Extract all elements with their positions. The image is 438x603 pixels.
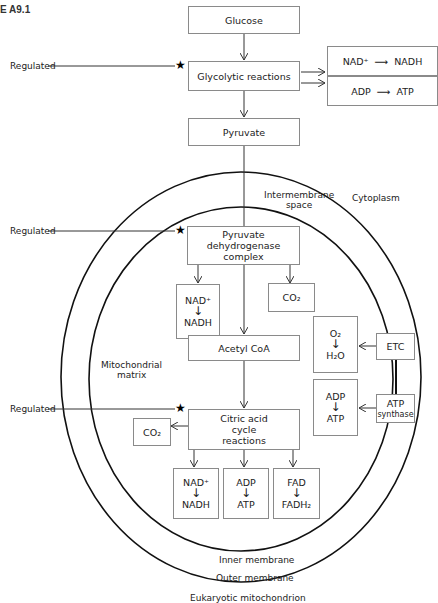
etc-water-box: O₂↓H₂O: [313, 316, 358, 373]
regulated-label-pdh: Regulated: [10, 226, 56, 236]
mitochondrial-matrix-label: Mitochondrialmatrix: [101, 360, 162, 380]
citric-co2-box: CO₂: [133, 418, 171, 446]
regulated-label-glycolysis: Regulated: [10, 61, 56, 71]
intermembrane-space-label: Intermembranespace: [264, 190, 334, 210]
regulated-star-icon: ★: [175, 59, 186, 71]
pdh-nad-box: NAD⁺↓NADH: [176, 284, 220, 339]
citric-acid-cycle-box: Citric acidcyclereactions: [188, 409, 300, 450]
glycolysis-atp-box: ADP⟶ATP: [327, 76, 438, 106]
down-arrow-icon: ↓: [291, 488, 301, 499]
citric-atp-box: ADP↓ATP: [223, 468, 269, 519]
down-arrow-icon: ↓: [191, 488, 201, 499]
outer-membrane-label: Outer membrane: [216, 573, 294, 583]
atp-synthase-atp-box: ADP↓ATP: [313, 379, 358, 436]
acetyl-coa-box: Acetyl CoA: [188, 335, 300, 361]
cytoplasm-label: Cytoplasm: [352, 193, 400, 203]
down-arrow-icon: ↓: [330, 402, 340, 413]
down-arrow-icon: ↓: [330, 339, 340, 350]
glycolytic-reactions-box: Glycolytic reactions: [188, 61, 300, 91]
etc-box: ETC: [376, 333, 415, 360]
atp-synthase-box: ATPsynthase: [376, 394, 415, 423]
citric-fad-box: FAD↓FADH₂: [273, 468, 320, 519]
regulated-star-icon: ★: [175, 224, 186, 236]
down-arrow-icon: ↓: [193, 306, 203, 317]
glycolysis-nad-box: NAD⁺⟶NADH: [327, 46, 438, 76]
pyruvate-box: Pyruvate: [188, 118, 300, 146]
pyruvate-dehydrogenase-box: Pyruvatedehydrogenasecomplex: [187, 226, 300, 265]
regulated-label-citric: Regulated: [10, 404, 56, 414]
regulated-star-icon: ★: [175, 402, 186, 414]
right-arrow-icon: ⟶: [377, 86, 391, 97]
diagram-caption: Eukaryotic mitochondrion: [190, 593, 306, 603]
pdh-co2-box: CO₂: [268, 283, 315, 312]
inner-membrane-label: Inner membrane: [219, 555, 294, 565]
glucose-box: Glucose: [188, 6, 300, 34]
right-arrow-icon: ⟶: [375, 56, 389, 67]
citric-nad-box: NAD⁺↓NADH: [173, 468, 219, 519]
down-arrow-icon: ↓: [241, 488, 251, 499]
